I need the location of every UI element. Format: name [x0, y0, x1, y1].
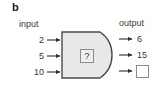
function-machine-figure: b input output 2 5 10 ? 6 15	[0, 0, 162, 86]
machine-question-mark-box: ?	[80, 49, 94, 63]
output-answer-box-row-3[interactable]	[136, 65, 149, 78]
output-value-row-1: 6	[137, 34, 142, 45]
output-value-row-2: 15	[137, 50, 147, 61]
